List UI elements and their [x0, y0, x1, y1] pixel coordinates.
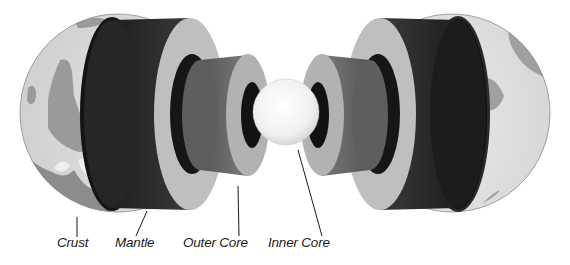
- label-inner-core: Inner Core: [268, 235, 330, 250]
- mantle-leader-line: [136, 211, 147, 236]
- inner-core-sphere: [253, 79, 319, 145]
- label-mantle: Mantle: [115, 235, 154, 250]
- earth-layers-diagram: [0, 0, 570, 265]
- label-crust: Crust: [57, 235, 88, 250]
- label-outer-core: Outer Core: [183, 235, 248, 250]
- outer-core-leader-line: [238, 186, 239, 236]
